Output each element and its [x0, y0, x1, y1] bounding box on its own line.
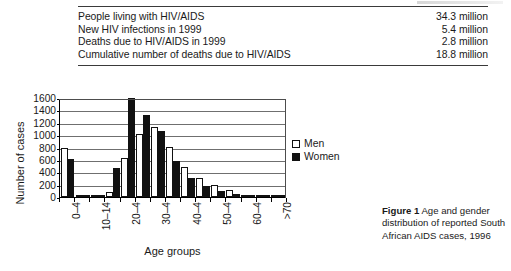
x-tick-label: 10–14	[101, 202, 112, 230]
bar-group	[271, 99, 286, 197]
table-top-rule	[78, 6, 488, 7]
stat-value: 34.3 million	[410, 11, 488, 24]
bar-men	[181, 167, 188, 197]
bar-group	[256, 99, 271, 197]
y-tick-label: 800	[39, 144, 56, 154]
stat-label: New HIV infections in 1999	[78, 24, 410, 37]
bar-women	[68, 159, 75, 197]
bar-group	[60, 99, 75, 197]
bar-group	[241, 99, 256, 197]
legend-item: Men	[292, 137, 340, 150]
bar-group	[105, 99, 120, 197]
y-tick-label: 1400	[33, 106, 56, 116]
bar-men	[211, 185, 218, 197]
bar-men	[136, 134, 143, 197]
y-tick-label: 1200	[33, 119, 56, 129]
bar-women	[173, 161, 180, 198]
bar-men	[151, 127, 158, 197]
figure-1: Number of cases 020040060080010001200140…	[0, 95, 511, 271]
table-row: Deaths due to HIV/AIDS in 19992.8 millio…	[78, 36, 488, 49]
plot-frame-top	[59, 99, 286, 100]
plot-frame-right	[285, 99, 286, 198]
stat-label: Cumulative number of deaths due to HIV/A…	[78, 49, 410, 62]
bar-men	[76, 195, 83, 197]
x-tick-label: 50–4	[222, 202, 233, 225]
stat-value: 18.8 million	[410, 49, 488, 62]
legend-label: Men	[304, 137, 324, 150]
table-bottom-rule	[78, 65, 488, 66]
bar-men	[121, 158, 128, 197]
bar-men	[91, 195, 98, 197]
bar-men	[196, 178, 203, 197]
y-tick-label: 1000	[33, 131, 56, 141]
bar-women	[203, 186, 210, 197]
stat-value: 5.4 million	[410, 24, 488, 37]
bar-men	[61, 148, 68, 198]
x-tick-label: 0–4	[71, 202, 82, 219]
y-tick-label: 600	[39, 156, 56, 166]
bar-group	[135, 99, 150, 197]
bar-men	[271, 195, 278, 197]
hiv-statistics-table: People living with HIV/AIDS34.3 millionN…	[78, 6, 488, 66]
bar-group	[90, 99, 105, 197]
bar-women	[263, 195, 270, 197]
y-tick-label: 1600	[33, 94, 56, 104]
y-tick-label: 400	[39, 168, 56, 178]
x-tick-label: >70	[282, 202, 293, 219]
bar-women	[113, 168, 120, 197]
bar-women	[233, 194, 240, 197]
legend-swatch-men-icon	[292, 140, 300, 148]
bar-groups	[60, 99, 286, 197]
table-row: New HIV infections in 19995.4 million	[78, 24, 488, 37]
bar-women	[143, 115, 150, 197]
bar-group	[150, 99, 165, 197]
x-tick-label: 60–4	[252, 202, 263, 225]
table-body: People living with HIV/AIDS34.3 millionN…	[78, 11, 488, 61]
bar-group	[196, 99, 211, 197]
bar-women	[188, 178, 195, 197]
bar-women	[128, 98, 135, 197]
bar-women	[158, 131, 165, 197]
y-tick-label: 0	[50, 193, 56, 203]
x-axis-tick-labels: 0–410–1420–430–440–450–460–4>70	[59, 202, 286, 246]
stat-label: People living with HIV/AIDS	[78, 11, 410, 24]
y-tick-label: 200	[39, 181, 56, 191]
bar-men	[106, 192, 113, 197]
bar-women	[83, 195, 90, 197]
bar-men	[166, 147, 173, 197]
bar-group	[181, 99, 196, 197]
bar-women	[218, 191, 225, 197]
bar-men	[256, 195, 263, 197]
x-tick-label: 20–4	[131, 202, 142, 225]
table-row: Cumulative number of deaths due to HIV/A…	[78, 49, 488, 62]
x-axis-title: Age groups	[59, 245, 286, 257]
table-row: People living with HIV/AIDS34.3 million	[78, 11, 488, 24]
stat-label: Deaths due to HIV/AIDS in 1999	[78, 36, 410, 49]
y-axis-title: Number of cases	[14, 115, 26, 211]
bar-group	[211, 99, 226, 197]
bar-group	[226, 99, 241, 197]
figure-caption-number: Figure 1	[382, 205, 419, 216]
legend-item: Women	[292, 150, 340, 163]
chart-plot-area: 02004006008001000120014001600	[59, 99, 286, 198]
figure-caption: Figure 1 Age and gender distribution of …	[382, 205, 508, 242]
legend-label: Women	[304, 150, 340, 163]
x-tick-label: 40–4	[192, 202, 203, 225]
x-tick-label: 30–4	[161, 202, 172, 225]
bar-men	[241, 195, 248, 197]
bar-group	[120, 99, 135, 197]
legend-swatch-women-icon	[292, 153, 300, 161]
bar-group	[165, 99, 180, 197]
bar-women	[248, 195, 255, 197]
scan-artifact	[417, 1, 503, 4]
chart-legend: MenWomen	[292, 137, 340, 163]
bar-group	[75, 99, 90, 197]
stat-value: 2.8 million	[410, 36, 488, 49]
bar-men	[226, 190, 233, 197]
bar-women	[98, 195, 105, 197]
